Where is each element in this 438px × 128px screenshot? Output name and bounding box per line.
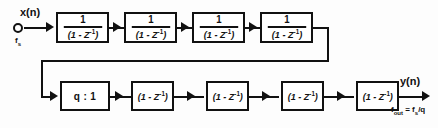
arrowhead-integrator-1-to-2 (113, 22, 121, 32)
input-rate-label: fs (15, 36, 21, 47)
comb-block-2[interactable]: (1 - Z-1) (206, 81, 249, 111)
arrowhead-integrator-3-to-4 (249, 22, 257, 32)
integrator-block-2[interactable]: 1 (1 - Z-1) (124, 12, 177, 43)
comb-block-3[interactable]: (1 - Z-1) (281, 81, 324, 111)
integrator-denominator-1: (1 - Z-1) (67, 28, 97, 40)
wire-wrap-down (327, 27, 329, 62)
integrator-block-1[interactable]: 1 (1 - Z-1) (56, 12, 109, 43)
integrator-numerator-3: 1 (216, 15, 221, 26)
integrator-numerator-2: 1 (148, 15, 153, 26)
arrowhead-comb-3-to-4 (337, 91, 345, 101)
integrator-denominator-2: (1 - Z-1) (135, 28, 165, 40)
wire-input-to-integrator-1 (24, 27, 48, 29)
input-node-circle-icon (13, 23, 23, 33)
arrowhead-integrator-2-to-3 (181, 22, 189, 32)
integrator-transfer-function-3: 1 (1 - Z-1) (199, 15, 237, 39)
arrowhead-comb-2-to-3 (262, 91, 270, 101)
arrowhead-output (422, 91, 430, 101)
input-signal-label: x(n) (20, 6, 40, 18)
comb-block-1[interactable]: (1 - Z-1) (131, 81, 174, 111)
comb-transfer-function-4: (1 - Z-1) (362, 90, 392, 102)
cic-filter-diagram: x(n) fs 1 (1 - Z-1) 1 (1 - Z-1) 1 (1 - Z… (0, 0, 438, 128)
integrator-transfer-function-1: 1 (1 - Z-1) (63, 15, 101, 39)
comb-transfer-function-3: (1 - Z-1) (287, 90, 317, 102)
comb-transfer-function-1: (1 - Z-1) (137, 90, 167, 102)
arrowhead-input-to-integrator-1 (46, 22, 54, 32)
arrowhead-comb-1-to-2 (187, 91, 195, 101)
integrator-block-4[interactable]: 1 (1 - Z-1) (260, 12, 313, 43)
integrator-denominator-3: (1 - Z-1) (203, 28, 233, 40)
arrowhead-into-decimator (50, 91, 58, 101)
wire-wrap-down-to-row2 (41, 60, 43, 97)
decimator-label: q : 1 (74, 91, 97, 102)
integrator-denominator-4: (1 - Z-1) (271, 28, 301, 40)
integrator-transfer-function-2: 1 (1 - Z-1) (131, 15, 169, 39)
input-rate-sub: s (18, 41, 21, 47)
output-signal-label: y(n) (400, 75, 420, 87)
output-rate-label: fout = fs/q (391, 105, 425, 116)
wire-wrap-left (41, 60, 329, 62)
decimator-block[interactable]: q : 1 (60, 81, 110, 111)
integrator-numerator-4: 1 (284, 15, 289, 26)
comb-transfer-function-2: (1 - Z-1) (212, 90, 242, 102)
integrator-transfer-function-4: 1 (1 - Z-1) (267, 15, 305, 39)
arrowhead-decimator-to-comb-1 (115, 91, 123, 101)
integrator-numerator-1: 1 (80, 15, 85, 26)
integrator-block-3[interactable]: 1 (1 - Z-1) (192, 12, 245, 43)
